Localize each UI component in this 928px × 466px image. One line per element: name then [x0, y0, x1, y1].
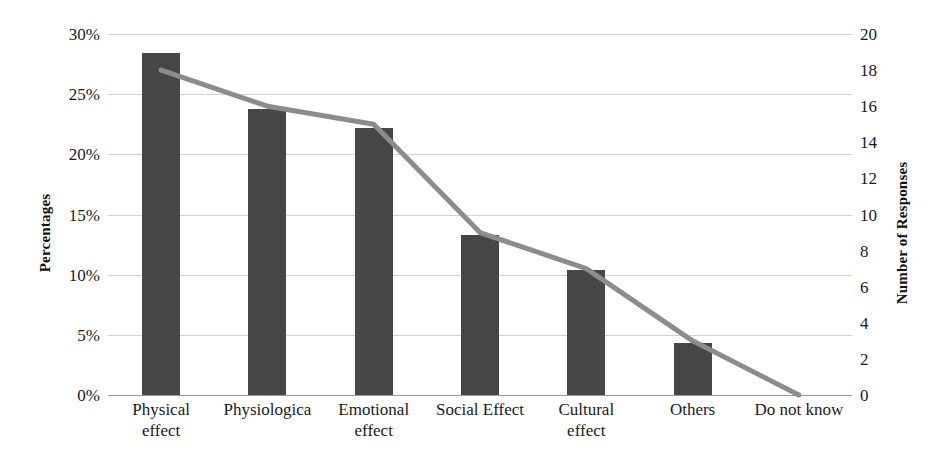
y-axis-right-tick-label: 4: [860, 314, 869, 331]
x-axis-category-labels: PhysicaleffectPhysiologicaEmotionaleffec…: [108, 399, 852, 459]
y-axis-left-tick-label: 10%: [69, 266, 100, 283]
x-axis-category-label-line: Do not know: [734, 399, 864, 420]
y-axis-right-tick-label: 12: [860, 170, 877, 187]
y-axis-left-tick-label: 30%: [69, 26, 100, 43]
y-axis-right-tick-label: 10: [860, 206, 877, 223]
y-axis-left-tick-label: 20%: [69, 146, 100, 163]
y-axis-right-tick-label: 6: [860, 278, 869, 295]
plot-area: [108, 34, 852, 395]
y-axis-right-tick-label: 16: [860, 98, 877, 115]
y-axis-right-ticks: 02468101214161820: [860, 0, 900, 466]
x-axis-category-label-line: effect: [521, 420, 651, 441]
y-axis-left-ticks: 0%5%10%15%20%25%30%: [38, 0, 100, 466]
x-axis-category-label-line: effect: [96, 420, 226, 441]
gridline: [108, 395, 852, 396]
chart-container: Percentages Number of Responses 0%5%10%1…: [0, 0, 928, 466]
y-axis-right-tick-label: 8: [860, 242, 869, 259]
y-axis-right-tick-label: 14: [860, 134, 877, 151]
y-axis-left-tick-label: 25%: [69, 86, 100, 103]
y-axis-right-tick-label: 20: [860, 26, 877, 43]
y-axis-left-tick-label: 5%: [77, 326, 100, 343]
y-axis-left-tick-label: 15%: [69, 206, 100, 223]
x-axis-category-label-line: effect: [309, 420, 439, 441]
line-series: [108, 34, 852, 395]
y-axis-right-tick-label: 2: [860, 350, 869, 367]
trend-line: [161, 70, 799, 395]
x-axis-category-label: Do not know: [734, 399, 864, 420]
y-axis-right-tick-label: 18: [860, 62, 877, 79]
